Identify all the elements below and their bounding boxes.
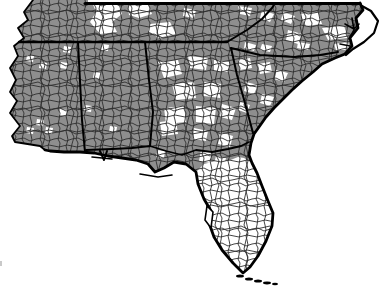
key-island bbox=[263, 282, 271, 285]
southeast-us-county-map bbox=[0, 0, 383, 287]
scan-artifact bbox=[0, 261, 2, 266]
key-island bbox=[254, 280, 262, 283]
florida-keys bbox=[236, 274, 278, 285]
key-island bbox=[272, 283, 278, 286]
key-island bbox=[236, 274, 244, 277]
key-island bbox=[245, 278, 253, 281]
map-stage bbox=[0, 0, 383, 287]
